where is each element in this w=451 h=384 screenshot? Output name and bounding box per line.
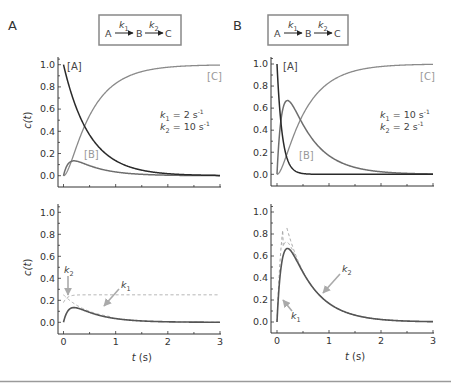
series-a-label: [A] bbox=[283, 61, 298, 72]
y-tick-label: 0.2 bbox=[253, 294, 268, 305]
series-a-label: [A] bbox=[67, 61, 82, 72]
x-tick-label: 2 bbox=[378, 335, 384, 346]
y-tick-label: 1.0 bbox=[40, 59, 55, 70]
y-tick-label: 0.2 bbox=[253, 147, 268, 158]
x-axis-title: t (s) bbox=[132, 352, 152, 363]
x-tick-label: 3 bbox=[430, 335, 436, 346]
species-b-label: B bbox=[136, 28, 143, 39]
species-b-label: B bbox=[305, 28, 312, 39]
series-b-line bbox=[64, 161, 221, 176]
species-c-label: C bbox=[334, 28, 341, 39]
y-tick-label: 0.0 bbox=[40, 317, 55, 328]
panel-a: 0.00.20.40.60.81.0c(t)Ak1Bk2CA[A][B][C]k… bbox=[8, 15, 222, 187]
x-tick-label: 1 bbox=[326, 335, 332, 346]
y-tick-label: 0.2 bbox=[40, 295, 55, 306]
y-tick-label: 0.4 bbox=[253, 124, 268, 135]
k2-arrow-label: k2 bbox=[64, 264, 74, 278]
k2-arrow-label: k2 bbox=[342, 263, 352, 277]
y-tick-label: 0.6 bbox=[40, 251, 55, 262]
y-tick-label: 0.8 bbox=[253, 80, 268, 91]
species-c-label: C bbox=[165, 28, 172, 39]
x-tick-label: 1 bbox=[113, 336, 119, 347]
k1-arrow bbox=[104, 289, 119, 306]
y-axis-title: c(t) bbox=[22, 259, 33, 276]
y-tick-label: 0.4 bbox=[253, 272, 268, 283]
y-tick-label: 0.4 bbox=[40, 126, 55, 137]
series-rise-dashed-line bbox=[64, 295, 221, 303]
y-tick-label: 1.0 bbox=[253, 206, 268, 217]
x-tick-label: 0 bbox=[60, 336, 66, 347]
panel-b: 0.00.20.40.60.81.0Ak1Bk2CB[A][B][C]k1 = … bbox=[233, 15, 435, 186]
panel-d: 0.00.20.40.60.81.00123t (s)k2k1 bbox=[253, 204, 436, 362]
y-tick-label: 0.6 bbox=[253, 250, 268, 261]
series-b-label: [B] bbox=[299, 150, 314, 161]
panel-c: 0.00.20.40.60.81.00123c(t)t (s)k2k1 bbox=[22, 204, 223, 363]
kinetics-figure: 0.00.20.40.60.81.0c(t)Ak1Bk2CA[A][B][C]k… bbox=[0, 0, 451, 384]
k1-arrow-label: k1 bbox=[121, 279, 131, 293]
series-c-label: [C] bbox=[420, 71, 435, 82]
y-axis-title: c(t) bbox=[22, 111, 33, 128]
y-tick-label: 0.0 bbox=[253, 169, 268, 180]
y-tick-label: 1.0 bbox=[40, 207, 55, 218]
species-a-label: A bbox=[105, 28, 112, 39]
x-tick-label: 0 bbox=[274, 335, 280, 346]
k1-arrow-label: k1 bbox=[291, 310, 301, 324]
series-c-label: [C] bbox=[207, 71, 222, 82]
series-b-line bbox=[277, 248, 433, 322]
series-rise-dashed-line bbox=[277, 230, 433, 322]
y-tick-label: 0.8 bbox=[40, 81, 55, 92]
series-decay-dashed-line bbox=[287, 228, 433, 322]
x-tick-label: 2 bbox=[165, 336, 171, 347]
y-tick-label: 1.0 bbox=[253, 58, 268, 69]
panel-letter: B bbox=[233, 18, 242, 33]
k2-arrow bbox=[323, 274, 340, 293]
series-b-label: [B] bbox=[84, 149, 99, 160]
panel-letter: A bbox=[8, 18, 17, 33]
x-axis-title: t (s) bbox=[345, 351, 365, 362]
y-tick-label: 0.6 bbox=[40, 103, 55, 114]
species-a-label: A bbox=[274, 28, 281, 39]
y-tick-label: 0.0 bbox=[40, 170, 55, 181]
y-tick-label: 0.2 bbox=[40, 148, 55, 159]
x-tick-label: 3 bbox=[217, 336, 223, 347]
series-decay-dashed-line bbox=[64, 295, 221, 322]
y-tick-label: 0.0 bbox=[253, 316, 268, 327]
series-b-line bbox=[64, 308, 221, 323]
y-tick-label: 0.4 bbox=[40, 273, 55, 284]
y-tick-label: 0.8 bbox=[40, 229, 55, 240]
y-tick-label: 0.6 bbox=[253, 102, 268, 113]
y-tick-label: 0.8 bbox=[253, 228, 268, 239]
